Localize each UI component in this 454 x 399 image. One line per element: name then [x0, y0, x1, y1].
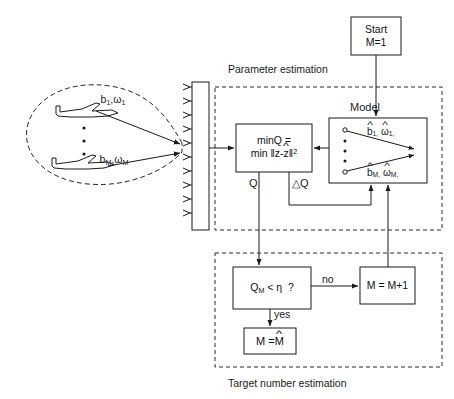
- decision-block[interactable]: QM < η ?: [233, 281, 311, 295]
- edge-label-yes: yes: [274, 309, 290, 321]
- diagram-canvas: b1,ω1 bM,ωM Parameter estimation Target …: [0, 0, 454, 399]
- antenna-array: [183, 82, 209, 230]
- diagram-graphics: [0, 0, 454, 399]
- start-block[interactable]: Start M=1: [351, 23, 401, 49]
- decision-q-sub: M: [258, 287, 264, 295]
- edge-label-delta-q: △Q: [292, 177, 309, 189]
- target-bottom-omega: ω: [114, 153, 122, 165]
- parameter-estimation-label: Parameter estimation: [228, 64, 328, 76]
- target-bottom-parameter-label: bM,ωM: [100, 154, 129, 167]
- increment-text: M = M+1: [360, 279, 415, 292]
- decision-expression: QM < η ?: [233, 281, 311, 295]
- result-block[interactable]: M =^M: [244, 335, 296, 348]
- z-hat: ^z: [284, 147, 289, 160]
- min-q-line1: minQ =: [236, 134, 312, 147]
- min-q-exponent: 2: [293, 147, 297, 156]
- min-q-block[interactable]: minQ = min ‖z-^z‖2: [236, 134, 312, 160]
- target-number-estimation-label: Target number estimation: [228, 378, 346, 390]
- increment-block[interactable]: M = M+1: [360, 279, 415, 292]
- model-bM-hat: ^b: [367, 167, 373, 178]
- model-omega1-hat: ^ω: [381, 126, 389, 137]
- edge-label-no: no: [322, 274, 334, 286]
- target-bottom-omega-sub: M: [122, 159, 128, 167]
- model-top-parameters: ^b1, ^ω1,: [367, 126, 395, 138]
- result-expression: M =^M: [244, 335, 296, 348]
- model-block-title: Model: [350, 101, 380, 113]
- target-top-omega: ω: [113, 93, 121, 105]
- model-omegaM-hat: ^ω: [383, 167, 391, 178]
- start-block-line2: M=1: [351, 36, 401, 49]
- model-b1-hat: ^b: [367, 126, 373, 137]
- min-q-line2: min ‖z-^z‖2: [236, 147, 312, 160]
- target-top-parameter-label: b1,ω1: [101, 94, 126, 107]
- start-block-line1: Start: [351, 23, 401, 36]
- model-bottom-parameters: ^bM, ^ωM,: [367, 167, 398, 179]
- edge-label-q: Q: [249, 177, 258, 189]
- target-top-omega-sub: 1: [121, 99, 125, 107]
- m-hat: ^M: [275, 335, 284, 348]
- vertical-ellipsis-targets: [82, 126, 85, 155]
